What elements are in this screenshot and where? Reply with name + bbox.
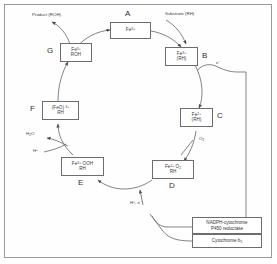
label-proton-left: H+ bbox=[33, 148, 38, 153]
node-a-ferric-enzyme: Fe3+ bbox=[110, 22, 151, 39]
label-oxygen: O2 bbox=[199, 136, 204, 142]
path-proton-in bbox=[44, 144, 66, 152]
path-electron-second-reduction bbox=[152, 216, 192, 227]
enzyme-box-nadph-p450-reductase: NADPH-cytochrome P450 reductase bbox=[192, 217, 262, 234]
node-e-ferric-hydroperoxo: Fe3+ OOH RH bbox=[61, 157, 104, 176]
path-b5-donation bbox=[150, 214, 192, 241]
cytochrome-p450-cycle-figure: Fe3+ Fe3+ (RH) Fe2+ (RH) Fe2+ O2 RH Fe3+… bbox=[0, 0, 277, 264]
node-f-line-2: RH bbox=[57, 111, 64, 116]
path-electron-first-reduction bbox=[197, 65, 246, 219]
node-e-line-2: RH bbox=[79, 167, 86, 172]
arrow-substrate-in bbox=[166, 20, 186, 44]
arrow-c-to-d bbox=[184, 131, 196, 161]
label-water: H2O bbox=[26, 131, 34, 137]
arrow-e-to-f bbox=[58, 124, 73, 155]
reductase-line-2: P450 reductase bbox=[211, 226, 243, 232]
node-g-ferric-product: Fe3+ ROH bbox=[60, 43, 92, 62]
label-product-roh: Product (ROH) bbox=[32, 12, 61, 17]
cytochrome-b5-line-1: Cytochrome b5 bbox=[212, 238, 242, 244]
node-c-line-2: (RH) bbox=[192, 118, 202, 123]
node-g-line-2: ROH bbox=[71, 53, 81, 58]
label-substrate-rh: Substrate (RH) bbox=[165, 11, 194, 16]
step-label-e: E bbox=[78, 178, 83, 187]
step-label-c: C bbox=[217, 111, 223, 120]
arrow-d-to-e bbox=[98, 180, 152, 189]
enzyme-box-cytochrome-b5: Cytochrome b5 bbox=[192, 234, 262, 248]
node-d-line-2: RH bbox=[170, 170, 177, 175]
label-electron-right: e− bbox=[216, 60, 220, 65]
node-d-ferrous-dioxygen: Fe2+ O2 RH bbox=[152, 160, 194, 179]
step-label-g: G bbox=[47, 46, 53, 55]
arrow-product-out bbox=[52, 22, 70, 44]
step-label-b: B bbox=[202, 51, 207, 60]
arrow-b-to-c bbox=[195, 65, 202, 108]
node-b-line-2: (RH) bbox=[177, 57, 187, 62]
node-f-perferryl-oxo: (FeO) 3+ RH bbox=[42, 101, 79, 120]
arrow-a-to-b bbox=[151, 31, 181, 47]
step-label-f: F bbox=[30, 104, 35, 113]
label-proton-electron-bottom: H+, e− bbox=[130, 200, 142, 205]
step-label-d: D bbox=[169, 181, 175, 190]
node-b-ferric-substrate: Fe3+ (RH) bbox=[165, 47, 198, 66]
arrow-f-to-g bbox=[58, 62, 68, 101]
step-label-a: A bbox=[125, 9, 130, 18]
node-c-ferrous-substrate: Fe2+ (RH) bbox=[180, 108, 213, 127]
node-a-line-1: Fe3+ bbox=[126, 28, 135, 33]
